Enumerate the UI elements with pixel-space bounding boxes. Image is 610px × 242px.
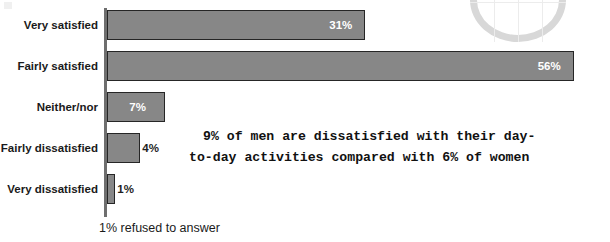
category-label: Neither/nor	[0, 92, 98, 122]
annotation-line-2: to-day activities compared with 6% of wo…	[189, 147, 609, 168]
satisfaction-bar-chart: Very satisfied31%Fairly satisfied56%Neit…	[0, 0, 610, 242]
bar-value-label: 7%	[129, 92, 146, 122]
bar-value-label: 31%	[329, 10, 352, 40]
annotation-line-1: 9% of men are dissatisfied with their da…	[189, 126, 609, 147]
category-label: Very dissatisfied	[0, 174, 98, 204]
bar	[107, 51, 574, 81]
bar-value-label: 4%	[142, 133, 159, 163]
bar-row: Neither/nor7%	[0, 92, 610, 122]
bar-value-label: 1%	[117, 174, 134, 204]
category-label: Very satisfied	[0, 10, 98, 40]
bar-row: Very satisfied31%	[0, 10, 610, 40]
bar-row: Fairly satisfied56%	[0, 51, 610, 81]
bar-row: Very dissatisfied1%	[0, 174, 610, 204]
corner-artifact	[4, 2, 12, 9]
chart-footnote: 1% refused to answer	[99, 221, 220, 235]
bar-value-label: 56%	[538, 51, 561, 81]
category-label: Fairly dissatisfied	[0, 133, 98, 163]
bar	[107, 10, 365, 40]
category-label: Fairly satisfied	[0, 51, 98, 81]
bar	[107, 174, 115, 204]
bar	[107, 133, 140, 163]
chart-annotation: 9% of men are dissatisfied with their da…	[189, 126, 609, 168]
